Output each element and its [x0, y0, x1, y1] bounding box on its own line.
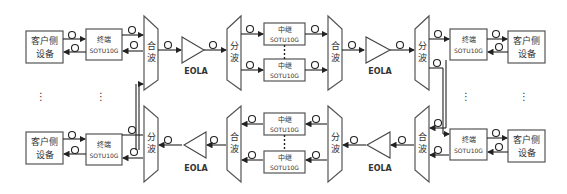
demux-label: 波: [331, 143, 340, 154]
demux-left-bottom: 分 波: [144, 106, 158, 182]
demux-label: 波: [418, 52, 427, 63]
fiber-coil-icon: [165, 137, 172, 144]
mux-label: 波: [230, 143, 239, 154]
fiber-coil-icon: [131, 42, 138, 49]
demux-middle-bottom: 分 波: [328, 106, 342, 182]
fiber-coil-icon: [312, 26, 319, 33]
relay-label: 中继: [278, 61, 292, 70]
amplifier-eola-top-left: EOLA: [182, 37, 209, 76]
amplifier-eola-top-right: EOLA: [366, 37, 393, 76]
relay-bottom-2: 中继 SOTU10G: [264, 151, 305, 173]
relay-model: SOTU10G: [270, 164, 299, 171]
amplifier-label: EOLA: [184, 67, 208, 76]
mux-right-bottom: 合 波: [415, 106, 429, 182]
terminal-label: 终端: [97, 140, 111, 149]
relay-label: 中继: [278, 25, 292, 34]
client-device-left-top: 客户侧 设备: [26, 31, 63, 63]
fiber-coil-icon: [131, 149, 138, 156]
amplifier-label: EOLA: [368, 164, 392, 173]
fiber-coil-icon: [493, 130, 500, 137]
demux-label: 分: [418, 41, 427, 51]
demux-label: 分: [147, 132, 156, 142]
relay-top-2: 中继 SOTU10G: [264, 59, 305, 81]
mux-label: 波: [331, 52, 340, 63]
client-label: 设备: [518, 147, 536, 158]
client-label: 设备: [36, 48, 54, 59]
relay-label: 中继: [278, 115, 292, 124]
client-label: 客户侧: [31, 35, 58, 46]
demux-label: 波: [147, 143, 156, 154]
fiber-coil-icon: [349, 42, 356, 49]
fiber-coil-icon: [69, 132, 76, 139]
fiber-coil-icon: [210, 42, 217, 49]
demux-middle-top: 分 波: [227, 16, 241, 90]
terminal-model: SOTU10G: [454, 47, 483, 54]
relay-model: SOTU10G: [270, 72, 299, 79]
terminal-right-bottom: 终端 SOTU10G: [450, 129, 487, 160]
fiber-coil-icon: [434, 60, 441, 67]
fiber-coil-icon: [72, 147, 79, 154]
mux-label: 合: [147, 40, 156, 51]
wdm-network-diagram: 客户侧 设备 终端 SOTU10G 合 波 EOLA ⋮ ⋮ 客户侧 设备 终端: [0, 0, 567, 194]
client-label: 客户侧: [31, 136, 58, 147]
client-device-right-top: 客户侧 设备: [508, 31, 545, 63]
mux-label: 合: [418, 131, 427, 142]
ellipsis-icon: ⋮: [461, 91, 471, 102]
amplifier-eola-bottom-right: EOLA: [367, 132, 393, 173]
client-device-left-bottom: 客户侧 设备: [26, 132, 63, 164]
demux-label: 分: [331, 132, 340, 142]
fiber-coil-icon: [399, 137, 406, 144]
fiber-coil-icon: [493, 31, 500, 38]
mux-middle-top: 合 波: [328, 16, 342, 90]
amplifier-eola-bottom-left: EOLA: [184, 132, 209, 173]
client-label: 设备: [518, 48, 536, 59]
ellipsis-icon: ⋮: [96, 91, 106, 102]
demux-label: 波: [230, 52, 239, 63]
fiber-coil-icon: [129, 27, 136, 34]
terminal-label: 终端: [462, 135, 476, 144]
fiber-coil-icon: [313, 152, 320, 159]
mux-middle-bottom: 合 波: [227, 106, 241, 182]
relay-top-1: 中继 SOTU10G: [264, 23, 305, 45]
ellipsis-icon: ⋮: [36, 91, 46, 102]
mux-label: 波: [147, 52, 156, 63]
client-label: 设备: [36, 149, 54, 160]
fiber-coil-icon: [72, 45, 79, 52]
fiber-coil-icon: [211, 137, 218, 144]
fiber-coil-icon: [249, 116, 256, 123]
fiber-coil-icon: [435, 147, 442, 154]
terminal-label: 终端: [97, 35, 111, 44]
fiber-coil-icon: [435, 120, 442, 127]
fiber-coil-icon: [435, 31, 442, 38]
mux-label: 波: [418, 143, 427, 154]
client-device-right-bottom: 客户侧 设备: [508, 130, 545, 162]
terminal-model: SOTU10G: [90, 152, 119, 159]
fiber-coil-icon: [165, 42, 172, 49]
terminal-left-bottom: 终端 SOTU10G: [86, 134, 122, 165]
fiber-coil-icon: [247, 26, 254, 33]
relay-model: SOTU10G: [270, 36, 299, 43]
terminal-model: SOTU10G: [454, 147, 483, 154]
fiber-coil-icon: [129, 127, 136, 134]
client-label: 客户侧: [513, 35, 540, 46]
amplifier-label: EOLA: [368, 67, 392, 76]
demux-right-top: 分 波: [415, 16, 429, 90]
amplifier-label: EOLA: [184, 164, 208, 173]
fiber-coil-icon: [313, 116, 320, 123]
terminal-left-top: 终端 SOTU10G: [86, 29, 122, 60]
fiber-coil-icon: [496, 44, 503, 51]
relay-label: 中继: [278, 153, 292, 162]
fiber-coil-icon: [69, 32, 76, 39]
terminal-label: 终端: [462, 35, 476, 44]
fiber-coil-icon: [247, 62, 254, 69]
terminal-model: SOTU10G: [90, 47, 119, 54]
ellipsis-icon: ⋮: [519, 91, 529, 102]
fiber-coil-icon: [351, 137, 358, 144]
demux-label: 分: [230, 41, 239, 51]
mux-left-top: 合 波: [144, 16, 158, 90]
relay-model: SOTU10G: [270, 126, 299, 133]
client-label: 客户侧: [513, 134, 540, 145]
relay-bottom-1: 中继 SOTU10G: [264, 113, 305, 135]
mux-label: 合: [230, 131, 239, 142]
mux-label: 合: [331, 40, 340, 51]
